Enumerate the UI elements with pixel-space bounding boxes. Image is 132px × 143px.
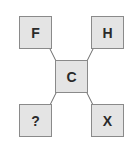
- node-top-right: H: [91, 16, 124, 49]
- node-label: X: [103, 113, 112, 129]
- node-label: F: [31, 25, 40, 41]
- node-bottom-left: ?: [19, 104, 52, 137]
- node-label: C: [66, 69, 76, 85]
- node-center: C: [55, 60, 88, 93]
- node-top-left: F: [19, 16, 52, 49]
- node-label: ?: [31, 113, 40, 129]
- node-bottom-right: X: [91, 104, 124, 137]
- node-label: H: [102, 25, 112, 41]
